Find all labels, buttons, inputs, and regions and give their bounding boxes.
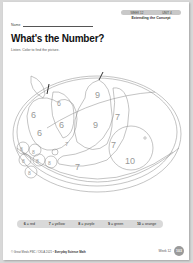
svg-text:9: 9 — [93, 120, 98, 130]
week-label: WEEK 12 — [130, 11, 143, 15]
svg-text:8: 8 — [22, 158, 25, 164]
name-label: Name — [11, 23, 20, 27]
key-item: 8 = purple — [78, 222, 94, 226]
svg-text:7: 7 — [111, 140, 116, 150]
svg-text:8: 8 — [20, 146, 23, 152]
number-6: 6 — [31, 110, 36, 120]
apple — [27, 98, 77, 150]
name-field[interactable]: Name — [11, 23, 93, 27]
svg-text:9: 9 — [95, 90, 100, 100]
key-item: 9 = green — [108, 222, 123, 226]
page-title: What's the Number? — [11, 33, 104, 44]
book-title: Everyday Science Math — [55, 250, 86, 254]
section-label: Extending the Concept — [119, 16, 183, 20]
svg-text:7: 7 — [115, 112, 120, 122]
key-item: 7 = yellow — [49, 222, 65, 226]
key-item: 10 = orange — [137, 222, 156, 226]
week-unit-badge: WEEK 12 UNIT 4 — [121, 10, 181, 15]
name-underline — [23, 23, 93, 27]
svg-text:6: 6 — [57, 100, 61, 107]
svg-text:8: 8 — [48, 160, 51, 166]
footer-week: Week 12 — [158, 249, 171, 253]
instructions: Listen. Color to find the picture. — [11, 48, 59, 52]
page-number-badge: 103 — [174, 246, 184, 256]
svg-text:6: 6 — [37, 128, 42, 138]
svg-text:8: 8 — [28, 170, 31, 176]
svg-text:7: 7 — [75, 162, 80, 172]
svg-text:10: 10 — [125, 156, 135, 166]
key-item: 6 = red — [24, 222, 35, 226]
worksheet-page: WEEK 12 UNIT 4 Extending the Concept Nam… — [3, 2, 189, 260]
pear — [74, 80, 112, 150]
svg-text:8: 8 — [36, 158, 39, 164]
unit-label: UNIT 4 — [162, 11, 171, 15]
svg-text:6: 6 — [59, 120, 64, 130]
footer-copyright: © Great Minds PBC / CKLA 2021 • Everyday… — [11, 250, 86, 254]
fruit-bowl-picture[interactable]: 6 6 6 6 9 9 7 7 7 7 10 8 8 8 8 8 8 — [7, 56, 187, 206]
svg-text:8: 8 — [32, 149, 35, 155]
color-key: 6 = red 7 = yellow 8 = purple 9 = green … — [17, 220, 163, 228]
